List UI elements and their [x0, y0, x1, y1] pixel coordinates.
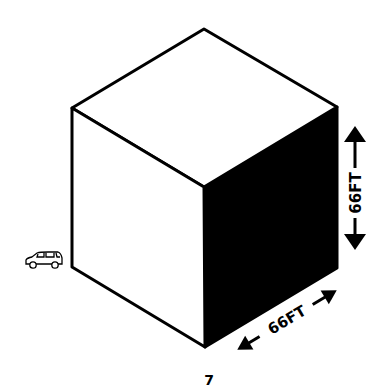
height-label: 66FT — [347, 172, 365, 214]
cube-diagram: 66FT 66FT 7 — [0, 0, 392, 390]
height-dimension-arrow: 66FT — [344, 126, 366, 250]
car-icon — [26, 252, 62, 268]
page-number: 7 — [204, 372, 214, 388]
